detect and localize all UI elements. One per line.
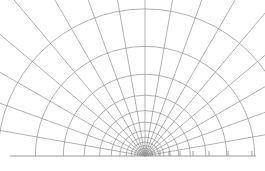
polar-grid-canvas (0, 0, 265, 171)
polar-grid-figure (0, 0, 265, 171)
